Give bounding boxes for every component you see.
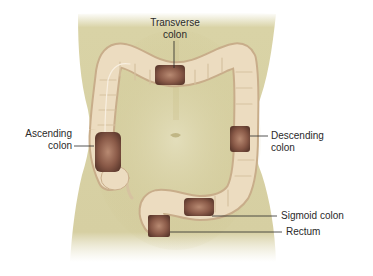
label-rectum: Rectum	[286, 226, 320, 238]
label-sigmoid-colon: Sigmoid colon	[281, 210, 344, 222]
transverse-cutaway	[155, 65, 185, 85]
label-transverse-line2: colon	[147, 29, 203, 41]
label-ascending-line2: colon	[14, 140, 72, 152]
descending-cutaway	[230, 126, 250, 152]
label-descending-line1: Descending	[271, 130, 324, 142]
label-transverse-line1: Transverse	[147, 17, 203, 29]
ascending-cutaway	[95, 132, 121, 172]
label-ascending-colon: Ascending colon	[14, 128, 72, 152]
label-transverse-colon: Transverse colon	[147, 17, 203, 41]
label-sigmoid-text: Sigmoid colon	[281, 210, 344, 221]
label-ascending-line1: Ascending	[14, 128, 72, 140]
label-rectum-text: Rectum	[286, 226, 320, 237]
rectum-cutaway	[148, 215, 170, 237]
sigmoid-cutaway	[184, 198, 214, 216]
label-descending-colon: Descending colon	[271, 130, 324, 154]
label-descending-line2: colon	[271, 142, 324, 154]
